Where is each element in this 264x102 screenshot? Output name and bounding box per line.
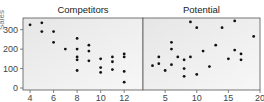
plot-area bbox=[143, 18, 260, 90]
data-point bbox=[195, 26, 198, 29]
x-tick-label: 10 bbox=[96, 93, 106, 102]
data-point bbox=[240, 58, 243, 61]
data-point bbox=[40, 21, 43, 24]
data-point bbox=[176, 55, 179, 58]
data-point bbox=[202, 50, 205, 53]
data-point bbox=[123, 81, 126, 84]
data-point bbox=[227, 57, 230, 60]
data-point bbox=[157, 62, 160, 65]
x-tick-label: 6 bbox=[51, 93, 56, 102]
data-point bbox=[64, 48, 67, 51]
data-point bbox=[221, 26, 224, 29]
y-tick-label: 100 bbox=[3, 64, 18, 74]
data-point bbox=[195, 73, 198, 76]
panel-title: Potential bbox=[183, 4, 220, 15]
x-tick-label: 10 bbox=[192, 93, 202, 102]
data-point bbox=[87, 59, 90, 62]
data-point bbox=[76, 37, 79, 40]
scatter-chart: Sales 0100200300 Competitors4681012 Pote… bbox=[0, 0, 264, 102]
x-tick-label: 8 bbox=[75, 93, 80, 102]
data-point bbox=[111, 60, 114, 63]
data-point bbox=[52, 30, 55, 33]
data-point bbox=[189, 20, 192, 23]
y-tick-label: 200 bbox=[3, 44, 18, 54]
panel-potential: Potential5101520 bbox=[143, 4, 264, 102]
panel-title: Competitors bbox=[57, 4, 108, 15]
data-point bbox=[99, 66, 102, 69]
data-point bbox=[123, 70, 126, 73]
data-point bbox=[183, 75, 186, 78]
data-point bbox=[189, 55, 192, 58]
data-point bbox=[157, 55, 160, 58]
data-point bbox=[52, 41, 55, 44]
data-point bbox=[233, 49, 236, 52]
data-point bbox=[76, 69, 79, 72]
x-tick-label: 15 bbox=[223, 93, 233, 102]
data-point bbox=[111, 55, 114, 58]
x-tick-label: 5 bbox=[163, 93, 168, 102]
y-axis: 0100200300 bbox=[3, 25, 23, 93]
data-point bbox=[99, 71, 102, 74]
data-point bbox=[240, 53, 243, 56]
x-tick-label: 12 bbox=[119, 93, 129, 102]
data-point bbox=[214, 44, 217, 47]
data-point bbox=[76, 48, 79, 51]
data-point bbox=[87, 50, 90, 53]
data-point bbox=[170, 48, 173, 51]
data-point bbox=[40, 30, 43, 33]
data-point bbox=[170, 63, 173, 66]
x-tick-label: 20 bbox=[255, 93, 264, 102]
y-tick-label: 300 bbox=[3, 25, 18, 35]
data-point bbox=[76, 55, 79, 58]
data-point bbox=[151, 64, 154, 67]
data-point bbox=[76, 58, 79, 61]
data-point bbox=[208, 65, 211, 68]
data-point bbox=[252, 35, 255, 38]
data-point bbox=[29, 23, 32, 26]
data-point bbox=[123, 55, 126, 58]
panel-competitors: Competitors4681012 bbox=[23, 4, 143, 102]
data-point bbox=[183, 67, 186, 70]
data-point bbox=[99, 57, 102, 60]
x-tick-label: 4 bbox=[28, 93, 33, 102]
data-point bbox=[170, 41, 173, 44]
data-point bbox=[233, 20, 236, 23]
y-tick-label: 0 bbox=[13, 83, 18, 93]
data-point bbox=[111, 68, 114, 71]
data-point bbox=[183, 58, 186, 61]
data-point bbox=[164, 69, 167, 72]
data-point bbox=[123, 53, 126, 56]
data-point bbox=[87, 44, 90, 47]
